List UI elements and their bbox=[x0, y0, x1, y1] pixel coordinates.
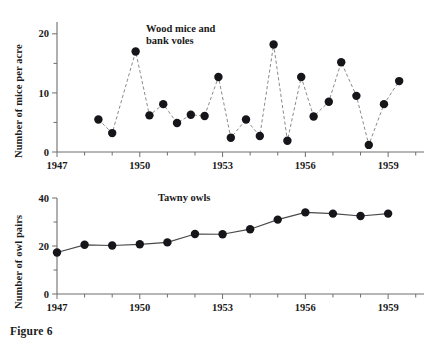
data-point-marker bbox=[329, 209, 337, 217]
data-point-marker bbox=[365, 141, 373, 149]
plot-area-mice: 0102019471950195319561959Wood mice andba… bbox=[0, 0, 432, 176]
x-tick-label: 1953 bbox=[212, 160, 233, 171]
data-point-marker bbox=[227, 134, 235, 142]
x-tick-label: 1950 bbox=[129, 302, 150, 313]
data-point-marker bbox=[384, 209, 392, 217]
series-title-line-2: bank voles bbox=[146, 35, 194, 46]
x-tick-label: 1959 bbox=[378, 302, 399, 313]
data-point-marker bbox=[297, 73, 305, 81]
y-tick-label: 40 bbox=[39, 193, 50, 204]
chart-wood-mice-bank-voles: Number of mice per acre 0102019471950195… bbox=[0, 0, 432, 176]
data-point-marker bbox=[108, 241, 116, 249]
series-title-line-1: Wood mice and bbox=[146, 23, 216, 34]
data-point-marker bbox=[187, 111, 195, 119]
y-tick-label: 0 bbox=[44, 289, 49, 300]
data-point-marker bbox=[163, 238, 171, 246]
data-point-marker bbox=[131, 47, 139, 55]
data-point-marker bbox=[325, 98, 333, 106]
data-point-marker bbox=[309, 112, 317, 120]
data-point-marker bbox=[380, 100, 388, 108]
data-point-marker bbox=[94, 115, 102, 123]
y-tick-label: 20 bbox=[39, 28, 50, 39]
data-point-marker bbox=[246, 225, 254, 233]
x-tick-label: 1947 bbox=[47, 302, 68, 313]
data-point-marker bbox=[159, 100, 167, 108]
data-point-marker bbox=[283, 137, 291, 145]
figure-caption: Figure 6 bbox=[10, 325, 53, 337]
x-tick-label: 1959 bbox=[378, 160, 399, 171]
data-point-marker bbox=[274, 215, 282, 223]
data-point-marker bbox=[269, 40, 277, 48]
data-point-marker bbox=[173, 119, 181, 127]
x-tick-label: 1947 bbox=[47, 160, 68, 171]
data-point-marker bbox=[242, 115, 250, 123]
plot-area-owls: 0204019471950195319561959Tawny owls bbox=[0, 176, 432, 326]
data-point-marker bbox=[256, 132, 264, 140]
data-point-marker bbox=[80, 241, 88, 249]
y-tick-label: 20 bbox=[39, 241, 50, 252]
data-point-marker bbox=[136, 240, 144, 248]
x-tick-label: 1953 bbox=[212, 302, 233, 313]
x-tick-label: 1956 bbox=[295, 160, 316, 171]
x-tick-label: 1950 bbox=[129, 160, 150, 171]
data-point-marker bbox=[200, 112, 208, 120]
series-title: Wood mice andbank voles bbox=[146, 23, 216, 46]
data-point-marker bbox=[301, 208, 309, 216]
data-point-marker bbox=[356, 212, 364, 220]
data-point-marker bbox=[218, 230, 226, 238]
data-point-marker bbox=[191, 230, 199, 238]
data-point-marker bbox=[395, 77, 403, 85]
chart-tawny-owls: Number of owl pairs 02040194719501953195… bbox=[0, 176, 432, 326]
y-tick-label: 0 bbox=[44, 147, 49, 158]
data-point-marker bbox=[352, 92, 360, 100]
figure-6: Number of mice per acre 0102019471950195… bbox=[0, 0, 432, 347]
series-title: Tawny owls bbox=[158, 192, 210, 203]
y-tick-label: 10 bbox=[39, 88, 50, 99]
data-point-marker bbox=[53, 248, 61, 256]
data-point-marker bbox=[337, 58, 345, 66]
data-point-marker bbox=[214, 73, 222, 81]
x-tick-label: 1956 bbox=[295, 302, 316, 313]
data-point-marker bbox=[108, 129, 116, 137]
data-point-marker bbox=[145, 111, 153, 119]
